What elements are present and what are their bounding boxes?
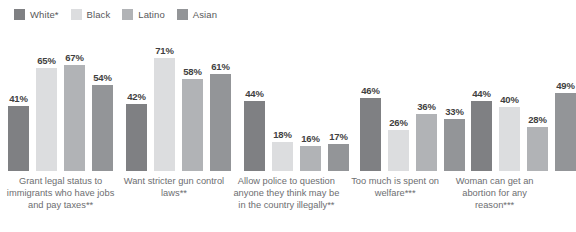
bar-slot[interactable]: 42% — [126, 26, 147, 171]
legend-swatch-icon — [14, 9, 25, 20]
bar-slot[interactable]: 58% — [182, 26, 203, 171]
legend-item-label: Asian — [193, 9, 217, 20]
category-caption: Grant legal status to immigrants who hav… — [4, 175, 117, 232]
bar-value-label: 33% — [445, 106, 464, 117]
bar-slot[interactable]: 44% — [244, 26, 265, 171]
bar[interactable] — [360, 98, 381, 171]
bar-value-label: 49% — [556, 80, 575, 91]
bar[interactable] — [210, 74, 231, 171]
bar-group: 46%26%36%33% — [360, 26, 465, 171]
legend-item-asian[interactable]: Asian — [177, 9, 217, 20]
bar-slot[interactable]: 67% — [64, 26, 85, 171]
bar[interactable] — [8, 106, 29, 171]
bar-group: 41%65%67%54% — [8, 26, 120, 171]
bar[interactable] — [126, 104, 147, 171]
bar-value-label: 67% — [65, 52, 84, 63]
bar[interactable] — [92, 85, 113, 171]
bar-slot[interactable]: 36% — [416, 26, 437, 171]
bar-value-label: 44% — [472, 88, 491, 99]
bar-slot[interactable]: 61% — [210, 26, 231, 171]
bar[interactable] — [527, 127, 548, 171]
bar-slot[interactable]: 40% — [499, 26, 520, 171]
legend-swatch-icon — [122, 9, 133, 20]
bar-slot[interactable]: 65% — [36, 26, 57, 171]
bar[interactable] — [64, 65, 85, 171]
bar[interactable] — [272, 142, 293, 171]
bar-slot[interactable]: 46% — [360, 26, 381, 171]
bar[interactable] — [388, 130, 409, 171]
bar[interactable] — [182, 79, 203, 171]
bar-value-label: 17% — [329, 131, 348, 142]
legend-item-white[interactable]: White* — [14, 9, 59, 20]
bar-value-label: 41% — [9, 93, 28, 104]
bar-slot[interactable]: 26% — [388, 26, 409, 171]
legend-item-label: Black — [87, 9, 111, 20]
plot-area: 41%65%67%54%42%71%58%61%44%18%16%17%46%2… — [0, 26, 541, 171]
bar[interactable] — [499, 107, 520, 171]
bar-value-label: 40% — [500, 94, 519, 105]
bar[interactable] — [154, 58, 175, 171]
bar-value-label: 28% — [528, 114, 547, 125]
bar-slot[interactable]: 71% — [154, 26, 175, 171]
bar-slot[interactable]: 16% — [300, 26, 321, 171]
bar[interactable] — [416, 114, 437, 171]
bar-value-label: 36% — [417, 101, 436, 112]
bar-slot[interactable]: 41% — [8, 26, 29, 171]
bar-value-label: 71% — [155, 45, 174, 56]
legend-item-label: Latino — [138, 9, 164, 20]
bar-value-label: 44% — [245, 88, 264, 99]
bar[interactable] — [328, 144, 349, 171]
bar-slot[interactable]: 17% — [328, 26, 349, 171]
legend-item-label: White* — [30, 9, 59, 20]
category-captions: Grant legal status to immigrants who hav… — [0, 175, 541, 232]
category-caption: Allow police to question anyone they thi… — [231, 175, 342, 232]
bar[interactable] — [555, 93, 576, 171]
bar-value-label: 58% — [183, 66, 202, 77]
bar-slot[interactable]: 54% — [92, 26, 113, 171]
bar-value-label: 26% — [389, 117, 408, 128]
bar-value-label: 65% — [37, 55, 56, 66]
category-caption: Woman can get an abortion for any reason… — [448, 175, 541, 232]
legend-swatch-icon — [71, 9, 82, 20]
bar-value-label: 61% — [211, 61, 230, 72]
bar-group: 44%40%28%49% — [471, 26, 567, 171]
bar-slot[interactable]: 49% — [555, 26, 576, 171]
legend-item-latino[interactable]: Latino — [122, 9, 164, 20]
bar-group: 42%71%58%61% — [126, 26, 238, 171]
bar-slot[interactable]: 44% — [471, 26, 492, 171]
bar-value-label: 18% — [273, 129, 292, 140]
category-caption: Want stricter gun control laws** — [119, 175, 229, 232]
bar-value-label: 54% — [93, 72, 112, 83]
bar-group: 44%18%16%17% — [244, 26, 354, 171]
legend-swatch-icon — [177, 9, 188, 20]
chart-legend: White*BlackLatinoAsian — [14, 6, 229, 22]
bar-slot[interactable]: 28% — [527, 26, 548, 171]
bar-value-label: 16% — [301, 133, 320, 144]
bar-value-label: 46% — [361, 85, 380, 96]
bar[interactable] — [244, 101, 265, 171]
bar[interactable] — [300, 146, 321, 171]
category-caption: Too much is spent on welfare*** — [344, 175, 446, 232]
bar-slot[interactable]: 18% — [272, 26, 293, 171]
bar-value-label: 42% — [127, 91, 146, 102]
bar-slot[interactable]: 33% — [444, 26, 465, 171]
legend-item-black[interactable]: Black — [71, 9, 111, 20]
bar[interactable] — [471, 101, 492, 171]
bar[interactable] — [444, 119, 465, 171]
bar[interactable] — [36, 68, 57, 171]
